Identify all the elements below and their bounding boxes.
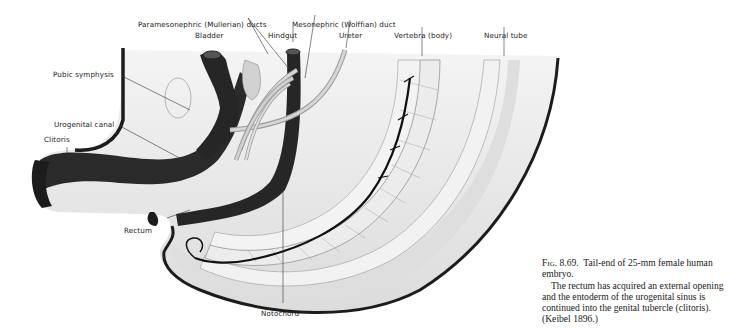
figure-caption: Fig. 8.69. Tail-end of 25-mm female huma… bbox=[542, 257, 737, 325]
label-vertebra: Vertebra (body) bbox=[394, 31, 452, 40]
label-clitoris: Clitoris bbox=[44, 135, 70, 144]
label-notochord: Notochord bbox=[261, 309, 299, 318]
label-urogenital-canal: Urogenital canal bbox=[54, 120, 114, 129]
label-rectum: Rectum bbox=[124, 226, 152, 235]
label-ureter: Ureter bbox=[339, 31, 362, 40]
figure-caption-body: The rectum has acquired an external open… bbox=[542, 280, 737, 325]
label-mesonephric: Mesonephric (Wolffian) duct bbox=[292, 20, 396, 29]
figure-number: Fig. 8.69. bbox=[542, 257, 579, 268]
label-hindgut: Hindgut bbox=[268, 31, 297, 40]
label-pubic-symphysis: Pubic symphysis bbox=[53, 70, 114, 79]
label-paramesonephric: Paramesonephric (Mullerian) ducts bbox=[138, 20, 267, 29]
label-neural-tube: Neural tube bbox=[484, 31, 527, 40]
embryo-illustration: Paramesonephric (Mullerian) ducts Mesone… bbox=[0, 0, 738, 331]
label-bladder: Bladder bbox=[195, 31, 224, 40]
